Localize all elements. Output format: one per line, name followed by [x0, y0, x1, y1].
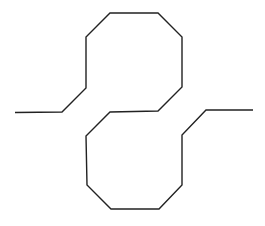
- diagram-canvas: [0, 0, 265, 226]
- s-curve-path: [15, 13, 253, 209]
- s-curve-diagram: [0, 0, 265, 226]
